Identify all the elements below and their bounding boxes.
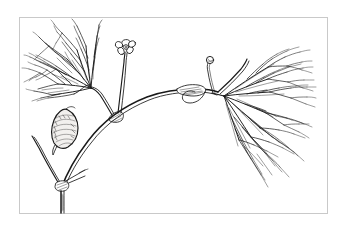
flower-bud — [206, 56, 213, 63]
figure-root: Aquatic buttercup plant illustration pen… — [0, 0, 345, 235]
canvas-background — [0, 0, 345, 235]
botanical-illustration — [0, 0, 345, 235]
